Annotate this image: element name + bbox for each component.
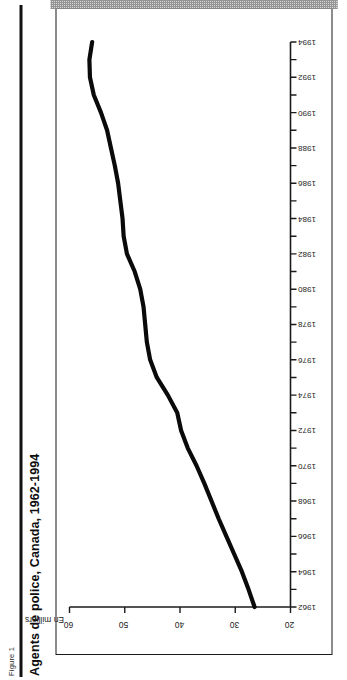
x-tick-label: 1992	[292, 73, 322, 82]
y-tick-label: 50	[113, 620, 133, 630]
y-tick-label: 30	[224, 620, 244, 630]
x-tick-label: 1968	[292, 497, 322, 506]
y-tick-label: 20	[279, 620, 299, 630]
x-tick-label: 1962	[292, 603, 322, 612]
x-tick-label: 1964	[292, 567, 322, 576]
caption-divider	[19, 5, 22, 677]
x-tick-label: 1986	[292, 179, 322, 188]
x-tick-label: 1978	[292, 320, 322, 329]
x-tick-label: 1970	[292, 461, 322, 470]
x-tick-label: 1982	[292, 249, 322, 258]
x-tick-label: 1966	[292, 532, 322, 541]
figure-label: Figure 1	[6, 647, 15, 676]
x-tick-label: 1972	[292, 426, 322, 435]
line-chart: 1962196419661968197019721974197619781980…	[55, 8, 332, 655]
x-tick-label: 1990	[292, 108, 322, 117]
x-tick-label: 1980	[292, 285, 322, 294]
figure-page: Figure 1 Agents de police, Canada, 1962-…	[0, 0, 347, 680]
x-tick-label: 1988	[292, 143, 322, 152]
x-tick-label: 1974	[292, 391, 322, 400]
x-tick-label: 1984	[292, 214, 322, 223]
y-tick-label: 40	[169, 620, 189, 630]
y-axis-ticks	[69, 607, 290, 613]
figure-title: Agents de police, Canada, 1962-1994	[27, 454, 41, 676]
x-tick-label: 1994	[292, 38, 322, 47]
x-tick-label: 1976	[292, 355, 322, 364]
chart-svg	[55, 8, 332, 655]
series-line-agents-de-police	[89, 42, 254, 607]
y-axis-title: En milliers	[24, 615, 63, 625]
